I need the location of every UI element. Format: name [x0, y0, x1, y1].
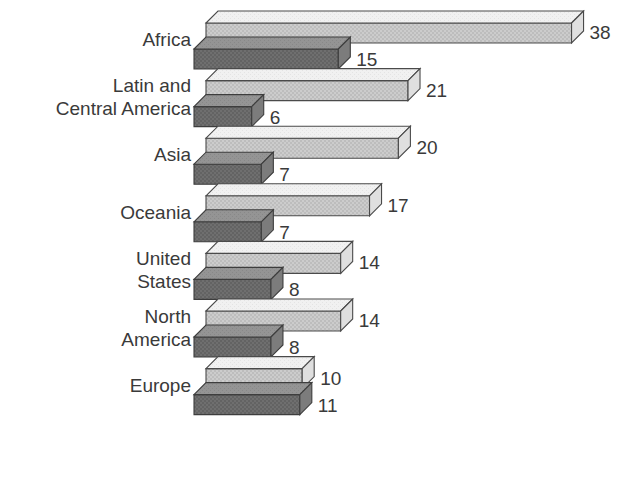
bar-1-series-2	[194, 95, 264, 127]
bar-5-series-2-front-face	[194, 337, 271, 357]
bar-0-series-1-top-face	[206, 11, 584, 23]
value-label-series-1-3: 17	[388, 195, 409, 216]
category-label-4-line-0: United	[136, 248, 191, 269]
bar-5-series-2	[194, 325, 283, 357]
bar-6-series-2-front-face	[194, 395, 300, 415]
bar-0-series-2	[194, 37, 350, 69]
category-label-4-line-1: States	[137, 271, 191, 292]
bar-chart-figure: AfricaLatin andCentral AmericaAsiaOceani…	[0, 0, 636, 490]
category-label-5-line-0: North	[145, 306, 191, 327]
bar-2-series-2	[194, 152, 273, 184]
bar-6-series-1-top-face	[206, 357, 314, 369]
value-label-series-1-1: 21	[426, 80, 447, 101]
value-label-series-2-0: 15	[356, 49, 377, 70]
value-label-series-2-6: 11	[318, 395, 338, 416]
value-label-series-1-5: 14	[359, 310, 381, 331]
chart-canvas: AfricaLatin andCentral AmericaAsiaOceani…	[0, 0, 636, 490]
bar-3-series-1-top-face	[206, 184, 382, 196]
bar-2-series-1-top-face	[206, 126, 410, 138]
value-label-series-2-3: 7	[279, 222, 290, 243]
bar-4-series-2-top-face	[194, 267, 283, 279]
category-label-0-line-0: Africa	[142, 29, 191, 50]
bar-2-series-2-front-face	[194, 164, 261, 184]
bar-6-series-2-top-face	[194, 383, 312, 395]
bar-4-series-2	[194, 267, 283, 299]
bar-0-series-2-top-face	[194, 37, 350, 49]
bar-5-series-1-top-face	[206, 299, 353, 311]
bar-6-series-2	[194, 383, 312, 415]
bar-2-series-2-top-face	[194, 152, 273, 164]
value-label-series-2-1: 6	[270, 107, 281, 128]
value-label-series-1-4: 14	[359, 252, 381, 273]
category-label-1-line-1: Central America	[56, 98, 192, 119]
category-label-5-line-1: America	[121, 329, 191, 350]
category-labels-layer: AfricaLatin andCentral AmericaAsiaOceani…	[56, 29, 192, 396]
value-label-series-1-2: 20	[416, 137, 437, 158]
bar-0-series-2-front-face	[194, 49, 338, 69]
category-label-2-line-0: Asia	[154, 144, 191, 165]
value-label-series-2-2: 7	[279, 164, 290, 185]
bar-5-series-2-top-face	[194, 325, 283, 337]
category-label-1-line-0: Latin and	[113, 75, 191, 96]
bar-1-series-2-front-face	[194, 107, 252, 127]
bar-3-series-2	[194, 210, 273, 242]
category-label-6-line-0: Europe	[130, 375, 191, 396]
value-label-series-1-0: 38	[590, 22, 611, 43]
bar-4-series-2-front-face	[194, 279, 271, 299]
bar-1-series-1-top-face	[206, 69, 420, 81]
category-label-3-line-0: Oceania	[120, 202, 191, 223]
value-label-series-1-6: 10	[320, 368, 341, 389]
value-label-series-2-5: 8	[289, 337, 300, 358]
bar-3-series-2-front-face	[194, 222, 261, 242]
bar-3-series-2-top-face	[194, 210, 273, 222]
bar-4-series-1-top-face	[206, 241, 353, 253]
value-label-series-2-4: 8	[289, 279, 300, 300]
